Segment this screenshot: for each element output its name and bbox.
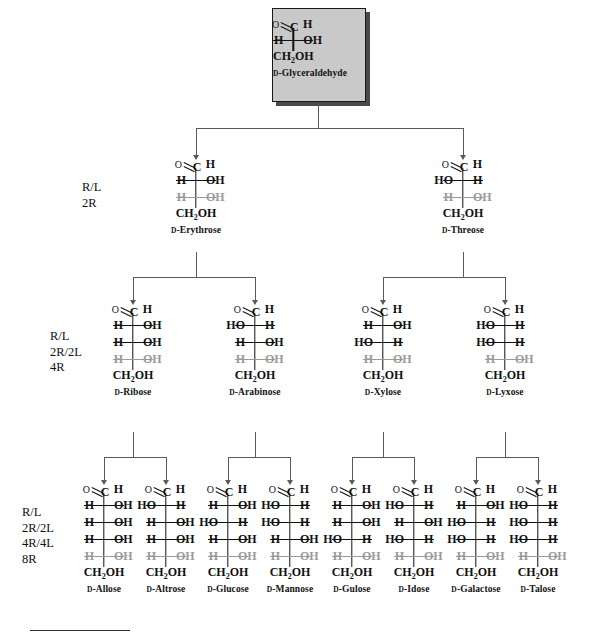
- substituent-right: H: [548, 515, 557, 530]
- aldehyde-hydrogen: H: [303, 18, 312, 30]
- stereocenter-3: HOH: [146, 514, 187, 531]
- stereocenter-5: HOH: [518, 548, 559, 565]
- stereocenter-2: HOH: [176, 172, 217, 189]
- l2b-drop-lyxose: [505, 277, 506, 300]
- substituent-right: OH: [473, 190, 492, 205]
- root-sugar-box: OCHHOHCH2OHD-Glyceraldehyde: [272, 8, 366, 102]
- substituent-right: OH: [143, 352, 162, 367]
- fischer-projection-arabinose: OCHHOHHOHHOHCH2OH: [235, 303, 276, 383]
- stereocenter-3: HOH: [176, 189, 217, 206]
- sugar-label-lyxose: D-Lyxose: [460, 387, 550, 397]
- fischer-projection-erythrose: OCHHOHHOHCH2OH: [176, 158, 217, 221]
- stereocenter-2: HOH: [518, 497, 559, 514]
- row-label-line: 4R/4L: [22, 536, 54, 552]
- stereocenter-5: HOH: [84, 548, 125, 565]
- aldehyde-oxygen: O: [484, 304, 491, 316]
- aldehyde-hydrogen: H: [265, 303, 274, 315]
- sugar-xylose[interactable]: OCHHOHHOHHOHCH2OHD-Xylose: [338, 303, 428, 397]
- aldehyde-oxygen: O: [234, 304, 241, 316]
- row-label-line: 8R: [22, 552, 54, 568]
- terminal-hydroxymethyl: CH2OH: [443, 206, 484, 221]
- terminal-hydroxymethyl: CH2OH: [273, 49, 314, 64]
- stereocenter-4: HOH: [518, 531, 559, 548]
- stereocenter-2: HOH: [363, 317, 404, 334]
- stereocenter-5: HOH: [146, 548, 187, 565]
- stereocenter-4: HOH: [208, 531, 249, 548]
- stereocenter-4: HOH: [456, 531, 497, 548]
- sugar-arabinose[interactable]: OCHHOHHOHHOHCH2OHD-Arabinose: [210, 303, 300, 397]
- aldehyde-oxygen: O: [269, 484, 276, 496]
- row-label-line: 4R: [50, 360, 82, 376]
- sugar-ribose[interactable]: OCHHOHHOHHOHCH2OHD-Ribose: [88, 303, 178, 397]
- l3b-stem: [255, 432, 256, 457]
- substituent-right: H: [548, 532, 557, 547]
- stereocenter-4: HOH: [363, 351, 404, 368]
- row-label-tetrose: R/L2R: [82, 180, 101, 211]
- aldehyde-oxygen: O: [272, 19, 279, 31]
- l1-stem: [318, 104, 319, 128]
- substituent-right: OH: [393, 352, 412, 367]
- fischer-projection-threose: OCHHOHHOHCH2OH: [443, 158, 484, 221]
- row-label-hexose: R/L2R/2L4R/4L8R: [22, 505, 54, 567]
- stereocenter-3: HOH: [84, 514, 125, 531]
- stereocenter-2: HOH: [456, 497, 497, 514]
- fischer-projection-gulose: OCHHOHHOHHOHHOHCH2OH: [332, 483, 373, 580]
- substituent-right: H: [265, 318, 274, 333]
- stereocenter-2: HOH: [235, 317, 276, 334]
- aldehyde-hydrogen: H: [548, 483, 557, 495]
- substituent-right: OH: [303, 33, 322, 48]
- stereocenter-4: HOH: [394, 531, 435, 548]
- terminal-hydroxymethyl: CH2OH: [270, 565, 311, 580]
- stereocenter-2: HOH: [146, 497, 187, 514]
- sugar-label-ribose: D-Ribose: [88, 387, 178, 397]
- fischer-projection-ribose: OCHHOHHOHHOHCH2OH: [113, 303, 154, 383]
- stereocenter-3: HOH: [518, 514, 559, 531]
- sugar-erythrose[interactable]: OCHHOHHOHCH2OHD-Erythrose: [151, 158, 241, 235]
- substituent-right: OH: [206, 190, 225, 205]
- substituent-right: H: [515, 318, 524, 333]
- substituent-right: OH: [393, 318, 412, 333]
- stereocenter-4: HOH: [235, 351, 276, 368]
- sugar-threose[interactable]: OCHHOHHOHCH2OHD-Threose: [418, 158, 508, 235]
- aldehyde-oxygen: O: [175, 159, 182, 171]
- substituent-right: OH: [548, 549, 567, 564]
- l1-drop-threose: [463, 128, 464, 155]
- substituent-right: H: [548, 498, 557, 513]
- aldehyde-oxygen: O: [145, 484, 152, 496]
- terminal-hydroxymethyl: CH2OH: [84, 565, 125, 580]
- fischer-projection-altrose: OCHHOHHOHHOHHOHCH2OH: [146, 483, 187, 580]
- l3b-drop-glucose: [228, 457, 229, 480]
- aldehyde-hydrogen: H: [143, 303, 152, 315]
- l3d-bar: [476, 457, 538, 458]
- stereocenter-3: HOH: [456, 514, 497, 531]
- sugar-talose[interactable]: OCHHOHHOHHOHHOHCH2OHD-Talose: [493, 483, 583, 594]
- stereocenter-4: HOH: [113, 351, 154, 368]
- aldehyde-oxygen: O: [331, 484, 338, 496]
- stereocenter-2: HOH: [113, 317, 154, 334]
- substituent-right: OH: [143, 318, 162, 333]
- l3c-drop-gulose: [352, 457, 353, 480]
- sugar-lyxose[interactable]: OCHHOHHOHHOHCH2OHD-Lyxose: [460, 303, 550, 397]
- l3d-stem: [505, 432, 506, 457]
- stereocenter-3: HOH: [443, 189, 484, 206]
- l2b-stem: [463, 252, 464, 277]
- sugar-label-glyceraldehyde: D-Glyceraldehyde: [273, 68, 365, 78]
- aldehyde-oxygen: O: [517, 484, 524, 496]
- aldehyde-oxygen: O: [83, 484, 90, 496]
- stereocenter-3: HOH: [270, 514, 311, 531]
- stereocenter-3: HOH: [235, 334, 276, 351]
- stereocenter-5: HOH: [456, 548, 497, 565]
- stereocenter-3: HOH: [485, 334, 526, 351]
- fischer-projection-talose: OCHHOHHOHHOHHOHCH2OH: [518, 483, 559, 580]
- aldehyde-oxygen: O: [442, 159, 449, 171]
- row-label-pentose: R/L2R/2L4R: [50, 329, 82, 376]
- stereocenter-2: HOH: [443, 172, 484, 189]
- aldehyde-oxygen: O: [455, 484, 462, 496]
- l2a-stem: [196, 252, 197, 277]
- stereocenter-5: HOH: [270, 548, 311, 565]
- stereocenter-4: HOH: [485, 351, 526, 368]
- row-label-line: R/L: [82, 180, 101, 196]
- l3b-drop-mannose: [290, 457, 291, 480]
- row-label-line: R/L: [50, 329, 82, 345]
- l2a-drop-ribose: [133, 277, 134, 300]
